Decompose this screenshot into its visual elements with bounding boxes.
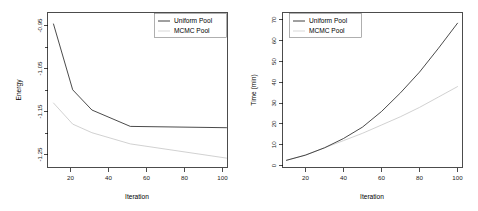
y-tick-label: 20 [270,120,277,127]
series-line-uniform-pool [287,23,458,160]
y-axis-left: -0.95 -1.05 -1.15 -1.25 [36,18,48,162]
y-tick-label: -1.25 [36,147,43,162]
x-tick-label: 60 [378,174,385,181]
x-axis-title: Iteration [360,193,384,200]
x-tick-label: 20 [67,174,74,181]
x-axis-right: 20 40 60 80 100 [302,168,463,182]
x-tick-label: 80 [416,174,423,181]
legend-label-mcmc-pool: MCMC Pool [309,27,345,34]
y-tick-label: -1.15 [36,104,43,119]
legend-label-uniform-pool: Uniform Pool [309,17,348,24]
y-tick-label: 10 [270,141,277,148]
series-line-mcmc-pool [287,87,458,161]
legend-label-mcmc-pool: MCMC Pool [174,27,210,34]
y-tick-label: 0 [270,163,277,167]
y-tick-label: 30 [270,99,277,106]
x-tick-label: 80 [181,174,188,181]
x-tick-label: 100 [217,174,228,181]
x-tick-label: 100 [452,174,463,181]
y-axis-title: Energy [15,79,23,101]
y-axis-right: 0 10 20 30 40 50 60 70 [270,16,283,167]
y-tick-label: 50 [270,58,277,65]
legend-label-uniform-pool: Uniform Pool [174,17,213,24]
panel-time: 0 10 20 30 40 50 60 70 20 40 60 80 100 [239,0,478,211]
y-tick-label: 70 [270,16,277,23]
y-tick-label: 40 [270,78,277,85]
series-line-mcmc-pool [54,103,227,158]
two-panel-figure: -0.95 -1.05 -1.15 -1.25 20 40 60 80 100 … [0,0,478,211]
legend-right: Uniform Pool MCMC Pool [290,14,362,38]
x-tick-label: 60 [143,174,150,181]
x-tick-label: 40 [105,174,112,181]
y-tick-label: -1.05 [36,61,43,76]
y-tick-label: 60 [270,37,277,44]
legend-left: Uniform Pool MCMC Pool [155,14,227,38]
y-tick-label: -0.95 [36,18,43,33]
x-axis-title: Iteration [125,193,149,200]
x-tick-label: 40 [340,174,347,181]
y-axis-title: Time (min) [250,74,258,105]
x-axis-left: 20 40 60 80 100 [67,168,228,182]
x-tick-label: 20 [302,174,309,181]
panel-energy: -0.95 -1.05 -1.15 -1.25 20 40 60 80 100 … [0,0,239,211]
series-line-uniform-pool [54,24,227,128]
